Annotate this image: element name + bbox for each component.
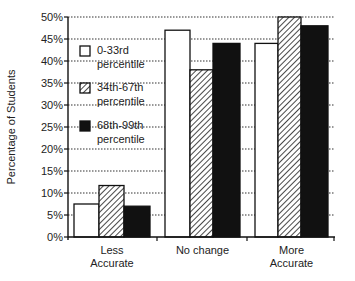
y-tick-label: 45%: [41, 33, 63, 45]
bar-hatched: [278, 17, 301, 237]
legend: 0-33rdpercentile34th-67thpercentile68th-…: [80, 44, 145, 145]
y-tick-label: 20%: [41, 143, 63, 155]
x-category-label: Accurate: [270, 257, 313, 269]
y-tick-label: 35%: [41, 77, 63, 89]
bar-chart: 0%5%10%15%20%25%30%35%40%45%50% LessAccu…: [0, 0, 355, 281]
x-category-labels: LessAccurateNo changeMoreAccurate: [90, 244, 313, 269]
bar-black: [124, 206, 150, 237]
y-tick-label: 30%: [41, 99, 63, 111]
bar-hatched: [99, 186, 124, 237]
legend-label: 34th-67th: [97, 81, 143, 93]
legend-label: percentile: [97, 133, 145, 145]
y-tick-label: 0%: [47, 231, 63, 243]
y-tick-labels: 0%5%10%15%20%25%30%35%40%45%50%: [41, 11, 63, 243]
x-category-label: No change: [176, 244, 229, 256]
x-category-label: Less: [100, 244, 124, 256]
legend-label: percentile: [97, 58, 145, 70]
x-category-label: More: [279, 244, 304, 256]
bar-white: [255, 43, 278, 237]
y-tick-label: 50%: [41, 11, 63, 23]
y-tick-label: 10%: [41, 187, 63, 199]
y-tick-label: 25%: [41, 121, 63, 133]
x-category-label: Accurate: [90, 257, 133, 269]
y-axis-label: Percentage of Students: [5, 69, 17, 184]
legend-label: 68th-99th: [97, 119, 143, 131]
bar-black: [213, 43, 240, 237]
legend-swatch-black: [80, 121, 90, 131]
bar-white: [74, 204, 99, 237]
legend-label: 0-33rd: [97, 44, 129, 56]
y-tick-label: 40%: [41, 55, 63, 67]
legend-label: percentile: [97, 95, 145, 107]
y-tick-label: 5%: [47, 209, 63, 221]
bar-black: [301, 26, 328, 237]
bar-hatched: [190, 70, 213, 237]
legend-swatch-hatched: [80, 83, 90, 93]
y-tick-label: 15%: [41, 165, 63, 177]
bar-white: [165, 30, 190, 237]
legend-swatch-white: [80, 46, 90, 56]
